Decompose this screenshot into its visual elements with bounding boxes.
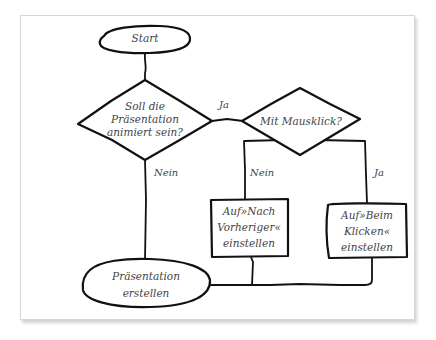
process-after-previous-line-1: Auf»Nach [222, 205, 276, 217]
connector-start-to-decision [145, 53, 146, 81]
decision-animated-line-2: Präsentation [110, 113, 179, 125]
connector-decision-no-to-end [145, 160, 146, 260]
process-after-previous-line-3: einstellen [223, 237, 275, 249]
edge-label-nein-1: Nein [153, 167, 178, 178]
end-line-2: erstellen [123, 287, 170, 299]
connector-mouseclick-yes [318, 140, 367, 203]
edge-label-nein-2: Nein [249, 167, 274, 178]
edge-label-ja-1: Ja [217, 99, 229, 110]
end-line-1: Präsentation [111, 270, 180, 282]
process-on-click-line-3: einstellen [341, 241, 393, 253]
connector-process1-down [251, 257, 253, 285]
connector-process2-down [340, 258, 372, 285]
start-label: Start [132, 32, 160, 44]
flowchart: Start Soll die Präsentation animiert sei… [0, 0, 436, 340]
process-on-click-line-1: Auf»Beim [340, 209, 393, 221]
connector-merge-to-end [210, 284, 340, 285]
edge-label-ja-2: Ja [372, 167, 384, 178]
process-after-previous-line-2: Vorheriger« [217, 221, 281, 233]
decision-mouseclick-label: Mit Mausklick? [259, 115, 342, 127]
process-on-click-line-2: Klicken« [343, 225, 390, 237]
connector-decision-yes [212, 119, 243, 121]
decision-animated-line-1: Soll die [125, 100, 165, 112]
decision-animated-line-3: animiert sein? [107, 126, 183, 138]
end-terminal [83, 259, 210, 307]
